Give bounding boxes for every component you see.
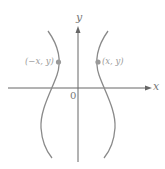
origin-label: 0 <box>70 90 76 101</box>
left-curve <box>41 31 59 158</box>
graph-canvas <box>0 0 165 169</box>
x-axis-arrow-icon <box>145 86 152 91</box>
point-right <box>95 59 100 64</box>
symmetry-diagram: y x 0 (−x, y) (x, y) <box>0 0 165 169</box>
point-right-label: (x, y) <box>102 56 124 66</box>
point-left-label: (−x, y) <box>25 56 54 66</box>
x-axis-label: x <box>153 80 159 93</box>
point-left <box>56 59 61 64</box>
y-axis-label: y <box>76 11 82 24</box>
y-axis-arrow-icon <box>76 26 81 33</box>
right-curve <box>97 31 115 158</box>
